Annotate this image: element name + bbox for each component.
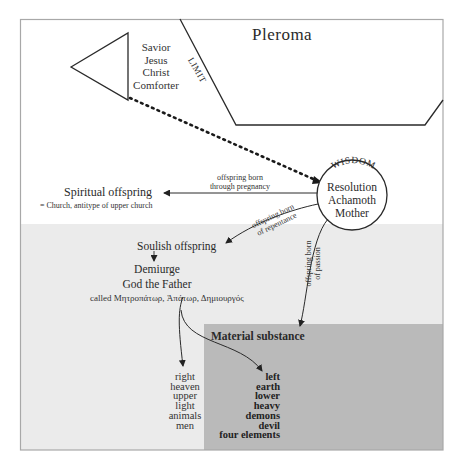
gnostic-cosmology-diagram: Pleroma LIMIT Savior Jesus Christ Comfor… — [0, 0, 463, 469]
pregnancy-arrow-label: offspring born through pregnancy — [200, 174, 280, 191]
spiritual-offspring-title: Spiritual offspring — [64, 186, 152, 198]
spiritual-offspring-note: = Church, antitype of upper church — [40, 202, 152, 210]
material-substance-title: Material substance — [211, 331, 305, 343]
savior-to-wisdom-dotted-line — [130, 98, 320, 182]
demiurge-greek-names: called Μητροπάτωρ, Ἀπάτωρ, Δημιουργός — [90, 294, 244, 303]
passion-arrow-label: offspring born of passion — [305, 229, 322, 299]
wisdom-line: Achamoth — [312, 194, 392, 207]
savior-names: Savior Jesus Christ Comforter — [128, 41, 184, 91]
right-list: right heaven upper light animals men — [160, 372, 210, 430]
wisdom-names: Resolution Achamoth Mother — [312, 181, 392, 220]
demiurge-label: Demiurge — [112, 264, 202, 276]
list-item: men — [160, 421, 210, 431]
soulish-offspring-title: Soulish offspring — [137, 241, 216, 253]
god-the-father-label: God the Father — [102, 279, 212, 291]
label-line: through pregnancy — [200, 183, 280, 192]
savior-line: Savior — [128, 41, 184, 54]
wisdom-line: Resolution — [312, 181, 392, 194]
left-list: left earth lower heavy demons devil four… — [210, 372, 280, 440]
label-line: of passion — [313, 229, 322, 299]
savior-triangle — [71, 33, 128, 100]
savior-line: Comforter — [128, 79, 184, 92]
savior-line: Christ — [128, 66, 184, 79]
savior-line: Jesus — [128, 54, 184, 67]
pleroma-label: Pleroma — [252, 26, 312, 43]
wisdom-line: Mother — [312, 207, 392, 220]
list-item: four elements — [210, 430, 280, 440]
